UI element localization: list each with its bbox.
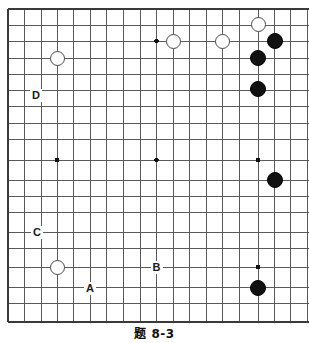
star-point-center	[154, 158, 158, 162]
board-background	[0, 0, 309, 326]
white-stone-top-center[interactable]	[166, 34, 181, 49]
go-board-grid	[0, 0, 309, 326]
board-label-d[interactable]: D	[30, 89, 42, 102]
star-point-bottom-right	[256, 265, 260, 269]
star-point-right-center	[256, 158, 260, 162]
board-label-a[interactable]: A	[84, 282, 96, 295]
black-stone-bottom-right[interactable]	[250, 280, 266, 296]
black-stone-right-third[interactable]	[250, 81, 266, 97]
white-stone-bottom-left[interactable]	[50, 260, 65, 275]
board-label-c[interactable]: C	[31, 226, 43, 239]
black-stone-right-upper[interactable]	[250, 50, 266, 66]
star-point-top-center	[154, 39, 158, 43]
go-board[interactable]: DCBA	[0, 0, 309, 326]
figure-caption: 题 8-3	[0, 324, 309, 341]
go-problem-figure: DCBA 题 8-3	[0, 0, 309, 343]
star-point-left-center	[55, 158, 59, 162]
board-label-b[interactable]: B	[151, 261, 163, 274]
white-stone-top-left[interactable]	[50, 51, 65, 66]
black-stone-top-right-corner[interactable]	[267, 33, 283, 49]
white-stone-top-right-inner[interactable]	[215, 34, 230, 49]
white-stone-top-right-upper[interactable]	[251, 17, 266, 32]
black-stone-right-middle[interactable]	[267, 172, 283, 188]
